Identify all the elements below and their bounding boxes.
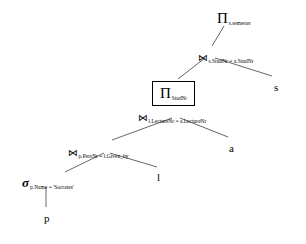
projection-operator-icon: Π	[160, 85, 171, 101]
relation-leaf-l[interactable]: l	[157, 172, 160, 183]
node-join-lecturenr-subscript: l.LectureNr = a.LectureNr	[149, 118, 207, 124]
projection-operator-icon: Π	[217, 10, 228, 26]
relation-leaf-s[interactable]: s	[274, 82, 278, 93]
join-operator-icon: ⋈	[68, 147, 78, 158]
node-projection-studnr-subscript: StudNr	[172, 95, 187, 101]
node-selection-name-subscript: p.Name = 'Socrates'	[30, 184, 74, 190]
relational-algebra-tree-diagram: Πs.semester⋈s.StudNr = a.StudNrΠStudNr⋈l…	[0, 0, 306, 244]
node-projection-studnr[interactable]: ΠStudNr	[152, 81, 195, 106]
node-projection-top[interactable]: Πs.semester	[217, 10, 250, 26]
selection-operator-icon: σ	[22, 175, 29, 190]
relation-leaf-p[interactable]: p	[44, 213, 50, 224]
edge-projection-top-to-join-studnr	[212, 26, 224, 46]
node-selection-name[interactable]: σp.Name = 'Socrates'	[22, 174, 73, 190]
relation-leaf-a[interactable]: a	[229, 143, 234, 154]
node-join-studnr-subscript: s.StudNr = a.StudNr	[209, 58, 254, 64]
node-projection-top-subscript: s.semester	[229, 20, 251, 26]
join-operator-icon: ⋈	[198, 52, 208, 63]
join-operator-icon: ⋈	[138, 112, 148, 123]
node-join-lecturenr[interactable]: ⋈l.LectureNr = a.LectureNr	[138, 108, 205, 124]
node-join-persnr-subscript: p.PersNr = l.Given_by	[79, 153, 129, 159]
node-join-persnr[interactable]: ⋈p.PersNr = l.Given_by	[68, 143, 127, 159]
node-join-studnr[interactable]: ⋈s.StudNr = a.StudNr	[198, 48, 253, 64]
